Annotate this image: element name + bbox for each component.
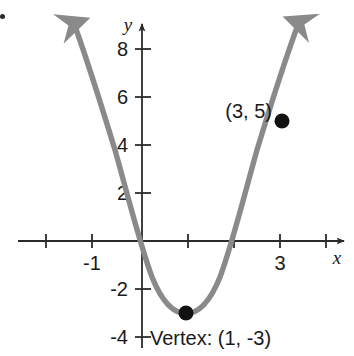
x-tick-label--1: -1 xyxy=(83,252,101,274)
y-axis-title: y xyxy=(122,14,133,35)
x-axis-title: x xyxy=(332,247,342,268)
vertex-label: Vertex: (1, -3) xyxy=(150,327,271,349)
point-marker-3-5 xyxy=(275,114,290,129)
parabola-figure: -1 3 x 8 6 4 2 -2 -4 y (3, 5) Vertex: (1… xyxy=(0,0,354,356)
parabola-curve xyxy=(74,23,299,314)
y-tick-label-6: 6 xyxy=(117,86,128,108)
point-marker-vertex xyxy=(179,306,194,321)
x-tick-label-3: 3 xyxy=(274,252,285,274)
point-label-3-5: (3, 5) xyxy=(225,100,272,122)
x-axis: -1 3 x xyxy=(18,234,344,274)
y-axis: 8 6 4 2 -2 -4 y xyxy=(110,14,151,348)
y-tick-label--2: -2 xyxy=(110,278,128,300)
y-tick-label-8: 8 xyxy=(117,38,128,60)
y-tick-label--4: -4 xyxy=(110,326,128,348)
